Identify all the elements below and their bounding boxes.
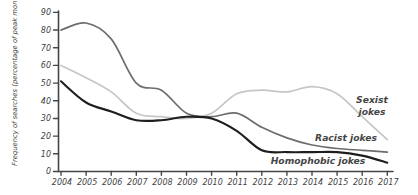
y-tick-label: 80 (41, 26, 51, 35)
x-tick-label: 2009 (177, 178, 197, 187)
x-tick-label: 2005 (77, 178, 97, 187)
series-line-sexist-jokes (61, 65, 387, 139)
x-tick-label: 2013 (278, 178, 298, 187)
x-axis-ticks: 2004200520062007200820092010201120122013… (52, 172, 400, 187)
x-tick-label: 2017 (378, 178, 399, 187)
series-label-sexist-jokes: Sexist (356, 94, 388, 105)
y-tick-label: 0 (46, 167, 51, 176)
y-tick-label: 60 (41, 61, 51, 70)
y-tick-label: 90 (41, 8, 51, 17)
x-tick-label: 2007 (127, 178, 148, 187)
series-labels: SexistjokesRacist jokesHomophobic jokes (271, 94, 389, 166)
y-axis-ticks: 0102030405060708090 (41, 8, 59, 176)
series-label-homophobic-jokes: Homophobic jokes (271, 155, 366, 166)
series-label-sexist-jokes: jokes (357, 106, 386, 117)
y-axis-title: Frequency of searches (percentage of pea… (11, 0, 19, 166)
x-tick-label: 2015 (328, 178, 348, 187)
x-tick-label: 2016 (353, 178, 373, 187)
x-tick-label: 2010 (202, 178, 222, 187)
x-tick-label: 2008 (152, 178, 172, 187)
y-tick-label: 20 (41, 132, 51, 141)
y-tick-label: 10 (41, 150, 51, 159)
x-tick-label: 2011 (228, 178, 248, 187)
line-chart: 0102030405060708090 20042005200620072008… (0, 0, 418, 195)
x-tick-label: 2004 (52, 178, 72, 187)
x-tick-label: 2014 (303, 178, 323, 187)
y-tick-label: 30 (41, 114, 51, 123)
y-tick-label: 40 (41, 97, 51, 106)
series-label-racist-jokes: Racist jokes (315, 132, 377, 143)
x-tick-label: 2006 (102, 178, 122, 187)
chart-figure: 0102030405060708090 20042005200620072008… (0, 0, 418, 195)
y-tick-label: 70 (41, 44, 51, 53)
y-tick-label: 50 (41, 79, 51, 88)
x-tick-label: 2012 (253, 178, 273, 187)
